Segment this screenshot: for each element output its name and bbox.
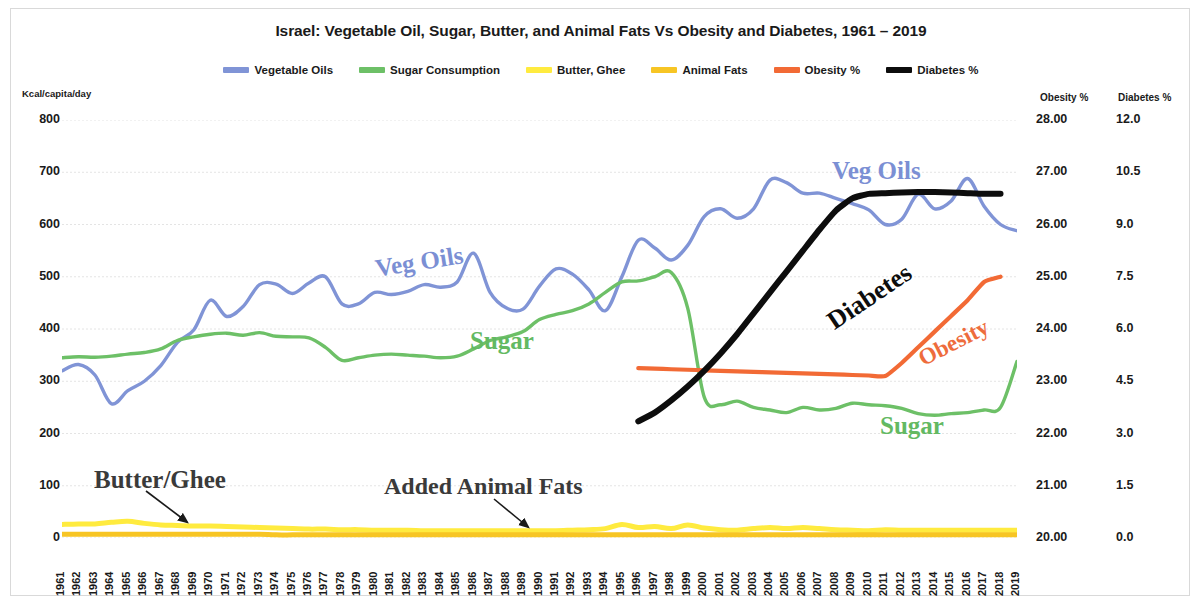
chart-legend: Vegetable OilsSugar ConsumptionButter, G… <box>0 64 1202 76</box>
legend-item-animal-fats[interactable]: Animal Fats <box>651 64 747 76</box>
x-tick-1989: 1989 <box>515 572 527 596</box>
x-tick-1966: 1966 <box>136 572 148 596</box>
y-tick-diabetes-6: 3.0 <box>1116 426 1156 440</box>
y-tick-diabetes-4: 6.0 <box>1116 321 1156 335</box>
x-tick-2014: 2014 <box>927 572 939 596</box>
legend-item-diabetes[interactable]: Diabetes % <box>886 64 978 76</box>
x-tick-1976: 1976 <box>301 572 313 596</box>
x-tick-1999: 1999 <box>680 572 692 596</box>
y-tick-diabetes-3: 7.5 <box>1116 269 1156 283</box>
y-tick-obesity-6: 22.00 <box>1036 426 1082 440</box>
y-tick-obesity-0: 28.00 <box>1036 112 1082 126</box>
x-tick-2016: 2016 <box>960 572 972 596</box>
y-tick-left-1: 700 <box>18 164 60 178</box>
x-tick-2013: 2013 <box>910 572 922 596</box>
x-tick-1993: 1993 <box>581 572 593 596</box>
legend-label: Vegetable Oils <box>254 64 333 76</box>
x-tick-1968: 1968 <box>169 572 181 596</box>
x-tick-1961: 1961 <box>54 572 66 596</box>
x-tick-1969: 1969 <box>186 572 198 596</box>
legend-label: Obesity % <box>805 64 861 76</box>
x-tick-1980: 1980 <box>367 572 379 596</box>
y-axis-left-title: Kcal/capita/day <box>22 88 91 99</box>
x-tick-2007: 2007 <box>811 572 823 596</box>
series-line-butter-ghee <box>62 521 1017 530</box>
y-tick-diabetes-1: 10.5 <box>1116 164 1156 178</box>
x-tick-1974: 1974 <box>268 572 280 596</box>
x-tick-2017: 2017 <box>976 572 988 596</box>
legend-swatch-icon <box>359 67 385 73</box>
x-tick-2000: 2000 <box>696 572 708 596</box>
x-tick-1978: 1978 <box>334 572 346 596</box>
y-tick-obesity-1: 27.00 <box>1036 164 1082 178</box>
x-tick-1991: 1991 <box>548 572 560 596</box>
x-axis-labels: 1961196219631964196519661967196819691970… <box>62 544 1017 596</box>
legend-item-butter-ghee[interactable]: Butter, Ghee <box>526 64 625 76</box>
x-tick-2004: 2004 <box>762 572 774 596</box>
y-tick-left-5: 300 <box>18 373 60 387</box>
annotation-sugar-left: Sugar <box>470 327 534 355</box>
legend-label: Diabetes % <box>917 64 978 76</box>
x-tick-1967: 1967 <box>153 572 165 596</box>
x-tick-2011: 2011 <box>877 572 889 596</box>
annotation-sugar-right: Sugar <box>880 412 944 440</box>
annotation-veg-oils-right: Veg Oils <box>832 157 921 185</box>
y-tick-left-3: 500 <box>18 269 60 283</box>
x-tick-2002: 2002 <box>729 572 741 596</box>
legend-swatch-icon <box>774 67 800 73</box>
x-tick-1977: 1977 <box>317 572 329 596</box>
x-tick-2001: 2001 <box>713 572 725 596</box>
x-tick-1979: 1979 <box>350 572 362 596</box>
x-tick-1971: 1971 <box>219 572 231 596</box>
x-tick-1985: 1985 <box>449 572 461 596</box>
x-tick-2012: 2012 <box>894 572 906 596</box>
x-tick-1987: 1987 <box>482 572 494 596</box>
legend-item-vegetable-oils[interactable]: Vegetable Oils <box>223 64 333 76</box>
y-tick-left-4: 400 <box>18 321 60 335</box>
y-tick-diabetes-8: 0.0 <box>1116 530 1156 544</box>
x-tick-1973: 1973 <box>252 572 264 596</box>
x-tick-2005: 2005 <box>778 572 790 596</box>
x-tick-1970: 1970 <box>202 572 214 596</box>
y-axis-diabetes-title: Diabetes % <box>1118 92 1171 103</box>
x-tick-1997: 1997 <box>647 572 659 596</box>
legend-label: Butter, Ghee <box>557 64 625 76</box>
y-tick-diabetes-0: 12.0 <box>1116 112 1156 126</box>
x-tick-2015: 2015 <box>943 572 955 596</box>
y-tick-obesity-5: 23.00 <box>1036 373 1082 387</box>
x-tick-1983: 1983 <box>416 572 428 596</box>
y-tick-left-8: 0 <box>18 530 60 544</box>
y-tick-left-2: 600 <box>18 217 60 231</box>
x-tick-1975: 1975 <box>285 572 297 596</box>
x-tick-2006: 2006 <box>795 572 807 596</box>
x-tick-1962: 1962 <box>70 572 82 596</box>
legend-label: Sugar Consumption <box>390 64 500 76</box>
x-tick-2009: 2009 <box>844 572 856 596</box>
legend-swatch-icon <box>886 67 912 73</box>
x-tick-1995: 1995 <box>614 572 626 596</box>
legend-swatch-icon <box>651 67 677 73</box>
x-tick-1994: 1994 <box>597 572 609 596</box>
y-axis-obesity-title: Obesity % <box>1040 92 1088 103</box>
x-tick-1998: 1998 <box>663 572 675 596</box>
y-tick-left-0: 800 <box>18 112 60 126</box>
annotation-added-animal-fats: Added Animal Fats <box>384 473 583 500</box>
legend-swatch-icon <box>223 67 249 73</box>
x-tick-1996: 1996 <box>630 572 642 596</box>
y-tick-obesity-7: 21.00 <box>1036 478 1082 492</box>
chart-title: Israel: Vegetable Oil, Sugar, Butter, an… <box>0 22 1202 40</box>
x-tick-1963: 1963 <box>87 572 99 596</box>
y-tick-diabetes-5: 4.5 <box>1116 373 1156 387</box>
series-line-animal-fats <box>62 534 1017 535</box>
x-tick-1988: 1988 <box>499 572 511 596</box>
legend-item-sugar-consumption[interactable]: Sugar Consumption <box>359 64 500 76</box>
y-tick-left-6: 200 <box>18 426 60 440</box>
legend-item-obesity[interactable]: Obesity % <box>774 64 861 76</box>
y-tick-obesity-2: 26.00 <box>1036 217 1082 231</box>
x-tick-1965: 1965 <box>120 572 132 596</box>
x-tick-1984: 1984 <box>433 572 445 596</box>
x-tick-2010: 2010 <box>861 572 873 596</box>
x-tick-1982: 1982 <box>400 572 412 596</box>
y-tick-left-7: 100 <box>18 478 60 492</box>
y-tick-obesity-8: 20.00 <box>1036 530 1082 544</box>
